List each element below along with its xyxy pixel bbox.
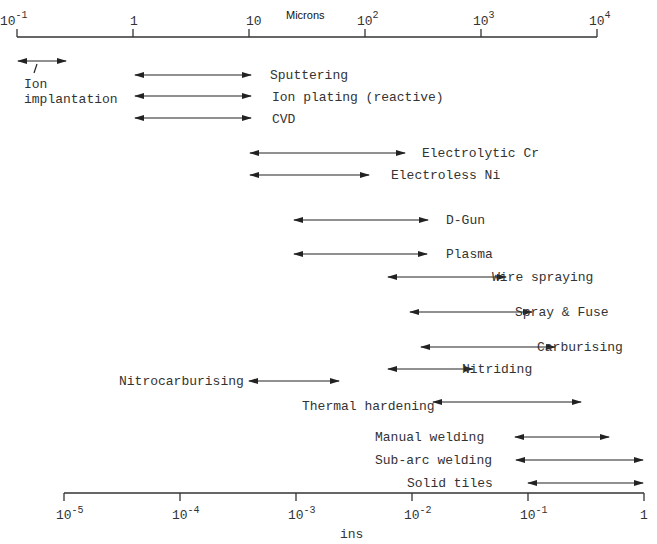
range-label: Solid tiles <box>407 476 493 491</box>
range-label: Ion plating (reactive) <box>272 90 444 105</box>
range-label: Thermal hardening <box>302 399 435 414</box>
top-tick-label: 103 <box>473 10 495 29</box>
bottom-tick-label: 10-5 <box>56 505 84 523</box>
top-tick-label: 10 <box>246 14 262 29</box>
range-sub-arc-welding: Sub-arc welding <box>375 453 643 468</box>
range-label: Spray & Fuse <box>515 305 609 320</box>
range-manual-welding: Manual welding <box>375 430 609 445</box>
top-tick-label: 102 <box>357 10 379 29</box>
range-electroless-ni: Electroless Ni <box>250 168 500 183</box>
range-sputtering: Sputtering <box>135 68 348 83</box>
top-tick-label: 10-1 <box>0 10 28 29</box>
range-label: Nitriding <box>462 362 532 377</box>
bottom-tick-label: 10-2 <box>404 505 432 523</box>
bottom-axis-inches: 10-510-410-310-210-11 ins <box>56 493 648 542</box>
range-label: Sputtering <box>270 68 348 83</box>
range-cvd: CVD <box>135 112 296 127</box>
range-plasma: Plasma <box>294 247 493 262</box>
range-nitrocarburising: Nitrocarburising <box>119 374 339 389</box>
range-label: Carburising <box>537 340 623 355</box>
bottom-tick-label: 10-4 <box>172 505 200 523</box>
bottom-axis-label: ins <box>340 527 363 542</box>
range-label: Plasma <box>446 247 493 262</box>
bottom-tick-label: 10-1 <box>520 505 548 523</box>
range-thermal-hardening: Thermal hardening <box>302 399 581 414</box>
range-label: Ion <box>24 77 47 92</box>
range-ion-implantation: Ionimplantation <box>18 61 118 107</box>
range-electrolytic-cr: Electrolytic Cr <box>250 146 539 161</box>
range-label: Sub-arc welding <box>375 453 492 468</box>
range-solid-tiles: Solid tiles <box>407 476 643 491</box>
top-tick-label: 1 <box>130 14 138 29</box>
bottom-tick-label: 1 <box>640 508 648 523</box>
top-tick-label: 104 <box>589 10 611 29</box>
range-spray-fuse: Spray & Fuse <box>410 305 609 320</box>
range-label: Manual welding <box>375 430 484 445</box>
range-carburising: Carburising <box>421 340 623 355</box>
top-axis-microns: 10-1110102103104 Microns <box>0 9 611 37</box>
coating-thickness-diagram: 10-1110102103104 Microns 10-510-410-310-… <box>0 0 657 544</box>
range-label: Nitrocarburising <box>119 374 244 389</box>
range-label: Electrolytic Cr <box>422 146 539 161</box>
top-axis-label: Microns <box>286 9 325 21</box>
range-ion-plating-reactive-: Ion plating (reactive) <box>135 90 444 105</box>
bottom-tick-label: 10-3 <box>288 505 316 523</box>
range-label: Wire spraying <box>492 270 593 285</box>
range-wire-spraying: Wire spraying <box>388 270 593 285</box>
range-nitriding: Nitriding <box>388 362 532 377</box>
range-label: Electroless Ni <box>391 168 500 183</box>
range-label: D-Gun <box>446 213 485 228</box>
range-label: implantation <box>24 92 118 107</box>
range-d-gun: D-Gun <box>294 213 485 228</box>
range-label: CVD <box>272 112 296 127</box>
